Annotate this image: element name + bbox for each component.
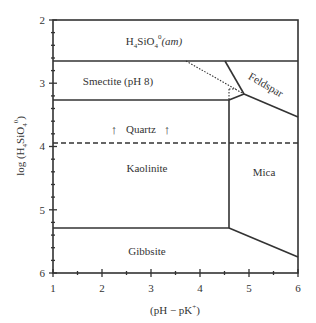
x-axis-label: (pH − pK+) (150, 303, 200, 317)
y-tick-5: 5 (40, 204, 46, 216)
field-label-feldspar: Feldspar (247, 70, 286, 100)
field-boundaries (53, 61, 298, 257)
y-tick-2: 2 (40, 14, 46, 26)
y-tick-3: 3 (40, 77, 46, 89)
y-tick-6: 6 (40, 267, 46, 279)
y-axis-label: log (H4SiO40) (12, 116, 29, 176)
plot-frame (53, 20, 298, 273)
gibbsite-mica-boundary (229, 228, 298, 257)
x-tick-labels: 1 2 3 4 5 6 (50, 282, 301, 294)
quartz-label-group: ↑ Quartz ↑ (111, 122, 171, 137)
field-label-amorphous-silica: H4SiO40(am) (126, 33, 183, 50)
up-arrow-icon: ↑ (164, 122, 171, 137)
field-label-gibbsite: Gibbsite (128, 245, 165, 257)
field-label-smectite: Smectite (pH 8) (83, 75, 154, 88)
up-arrow-icon: ↑ (111, 122, 118, 137)
x-tick-2: 2 (99, 282, 105, 294)
smectite-mica-boundary (229, 94, 244, 100)
y-tick-labels: 2 3 4 5 6 (40, 14, 46, 279)
x-tick-3: 3 (148, 282, 154, 294)
field-label-mica: Mica (253, 166, 276, 178)
stability-diagram: 2 3 4 5 6 1 2 3 4 5 6 (pH − pK+) log (H4… (0, 0, 316, 323)
y-tick-4: 4 (40, 140, 46, 152)
feldspar-mica-boundary (244, 94, 298, 117)
field-label-kaolinite: Kaolinite (127, 162, 168, 174)
feldspar-smectite-boundary (225, 61, 244, 94)
x-tick-4: 4 (197, 282, 203, 294)
x-tick-1: 1 (50, 282, 56, 294)
y-axis-ticks (49, 20, 57, 273)
x-tick-5: 5 (246, 282, 252, 294)
field-label-quartz: Quartz (126, 123, 156, 135)
dotted-boundaries (186, 61, 244, 100)
x-tick-6: 6 (295, 282, 301, 294)
